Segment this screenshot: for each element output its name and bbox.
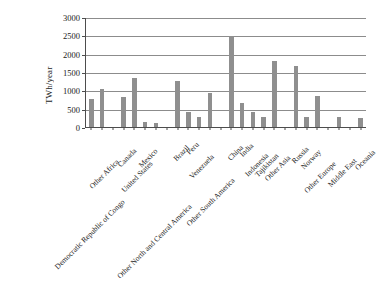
- x-axis-tick-mark: [285, 127, 286, 130]
- bar-slot: [247, 18, 258, 127]
- x-axis-tick-label: Canada: [116, 147, 137, 168]
- bar-slot: [334, 18, 345, 127]
- x-axis-tick-mark: [274, 127, 275, 130]
- x-axis-tick-label: Other South America: [186, 177, 237, 228]
- bar[interactable]: [186, 112, 191, 127]
- bar[interactable]: [304, 117, 309, 127]
- bar-slot: [355, 18, 366, 127]
- bar-slot: [151, 18, 162, 127]
- x-axis-tick-mark: [155, 127, 156, 130]
- x-axis-tick-mark: [188, 127, 189, 130]
- y-axis-tick-mark: [82, 128, 85, 129]
- y-axis-tick-label: 0: [76, 124, 80, 133]
- y-axis-tick-label: 2500: [63, 32, 80, 41]
- bar-slot: [237, 18, 248, 127]
- x-axis-tick-mark: [338, 127, 339, 130]
- x-axis-tick-label: Democratic Republic of Congo: [54, 198, 127, 271]
- x-axis-tick-mark: [177, 127, 178, 130]
- bar[interactable]: [121, 97, 126, 127]
- y-axis-tick-labels: 050010001500200025003000: [56, 18, 82, 128]
- bar-slot: [301, 18, 312, 127]
- x-axis-tick-mark: [231, 127, 232, 130]
- bar-slot: [215, 18, 226, 127]
- bar-slot: [312, 18, 323, 127]
- y-axis-tick-label: 3000: [63, 14, 80, 23]
- bar-slot: [161, 18, 172, 127]
- bar[interactable]: [337, 117, 342, 127]
- bar-slot: [140, 18, 151, 127]
- x-axis-tick-mark: [166, 127, 167, 130]
- bar-slot: [86, 18, 97, 127]
- bar-slot: [118, 18, 129, 127]
- x-axis-tick-mark: [102, 127, 103, 130]
- y-axis-tick-label: 2000: [63, 50, 80, 59]
- bar[interactable]: [240, 103, 245, 127]
- x-axis-tick-mark: [220, 127, 221, 130]
- bar-slot: [280, 18, 291, 127]
- x-axis-tick-mark: [349, 127, 350, 130]
- x-axis-tick-mark: [123, 127, 124, 130]
- bar[interactable]: [251, 112, 256, 127]
- bar-slot: [344, 18, 355, 127]
- bar[interactable]: [229, 36, 234, 127]
- bar[interactable]: [272, 61, 277, 127]
- bar[interactable]: [208, 93, 213, 127]
- x-axis-tick-mark: [317, 127, 318, 130]
- x-axis-tick-mark: [199, 127, 200, 130]
- bar[interactable]: [358, 118, 363, 127]
- bar-slot: [204, 18, 215, 127]
- x-axis-tick-label: Venezuela: [189, 153, 216, 180]
- x-axis-tick-mark: [209, 127, 210, 130]
- bar[interactable]: [100, 89, 105, 127]
- x-axis-tick-label: Peru: [185, 141, 200, 156]
- bar[interactable]: [197, 117, 202, 127]
- bar[interactable]: [89, 99, 94, 127]
- plot-area: [85, 18, 366, 128]
- x-axis-tick-mark: [242, 127, 243, 130]
- bar-slot: [291, 18, 302, 127]
- x-axis-tick-mark: [145, 127, 146, 130]
- bar-slot: [108, 18, 119, 127]
- bar-slot: [183, 18, 194, 127]
- x-axis-tick-mark: [295, 127, 296, 130]
- x-axis-tick-mark: [134, 127, 135, 130]
- y-axis-tick-label: 500: [67, 105, 80, 114]
- bar[interactable]: [175, 81, 180, 127]
- bar[interactable]: [315, 96, 320, 127]
- bar-slot: [172, 18, 183, 127]
- bar-slot: [194, 18, 205, 127]
- x-axis-tick-mark: [91, 127, 92, 130]
- x-axis-tick-mark: [112, 127, 113, 130]
- y-axis-tick-label: 1000: [63, 87, 80, 96]
- y-axis-title: TWh/year: [44, 50, 56, 120]
- bar-slot: [226, 18, 237, 127]
- y-axis-tick-label: 1500: [63, 69, 80, 78]
- x-axis-tick-mark: [263, 127, 264, 130]
- bar[interactable]: [132, 78, 137, 127]
- x-axis-tick-label: Other North and Central America: [116, 203, 193, 280]
- x-axis-tick-labels: Democratic Republic of CongoOther Africa…: [85, 131, 366, 281]
- chart-figure: TWh/year 050010001500200025003000 Democr…: [0, 0, 376, 283]
- bar-series: [86, 18, 366, 127]
- x-axis-tick-mark: [360, 127, 361, 130]
- bar-slot: [129, 18, 140, 127]
- bar-slot: [269, 18, 280, 127]
- bar-slot: [258, 18, 269, 127]
- x-axis-tick-mark: [306, 127, 307, 130]
- x-axis-tick-mark: [328, 127, 329, 130]
- bar-slot: [323, 18, 334, 127]
- x-axis-tick-mark: [252, 127, 253, 130]
- bar-slot: [97, 18, 108, 127]
- x-axis-tick-label: Oceania: [353, 149, 376, 172]
- bar[interactable]: [294, 66, 299, 127]
- bar[interactable]: [261, 117, 266, 127]
